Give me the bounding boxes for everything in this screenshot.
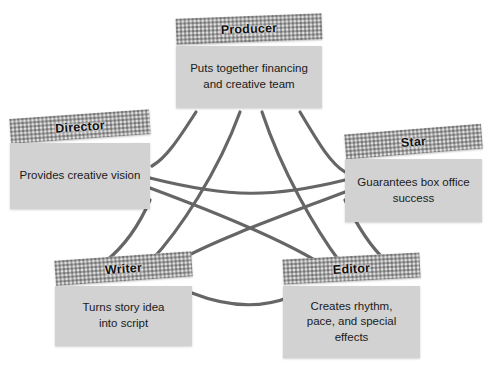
- node-producer-header: Producer: [176, 13, 323, 45]
- node-producer-body: Puts together financing and creative tea…: [176, 46, 322, 108]
- node-producer[interactable]: Producer Puts together financing and cre…: [176, 16, 322, 108]
- node-editor[interactable]: Editor Creates rhythm, pace, and special…: [283, 256, 420, 358]
- node-writer-header: Writer: [54, 251, 192, 285]
- node-editor-description: Creates rhythm, pace, and special effect…: [307, 299, 397, 346]
- connector-writer-editor: [192, 293, 290, 305]
- connector-producer-star: [300, 112, 345, 172]
- diagram-canvas: Producer Puts together financing and cre…: [0, 0, 490, 367]
- node-director-description: Provides creative vision: [20, 168, 141, 184]
- node-star-title: Star: [394, 133, 432, 150]
- node-director-body: Provides creative vision: [10, 143, 150, 209]
- node-writer-description: Turns story idea into script: [82, 300, 164, 331]
- node-director[interactable]: Director Provides creative vision: [10, 114, 150, 209]
- node-editor-title: Editor: [327, 260, 377, 277]
- node-writer-title: Writer: [99, 260, 149, 277]
- node-writer[interactable]: Writer Turns story idea into script: [55, 256, 192, 346]
- node-star[interactable]: Star Guarantees box office success: [345, 129, 482, 222]
- node-editor-header: Editor: [282, 252, 420, 284]
- connector-star-writer: [176, 192, 345, 262]
- node-star-header: Star: [344, 124, 483, 160]
- connector-producer-director: [152, 112, 196, 166]
- connector-director-writer: [106, 200, 150, 261]
- node-director-header: Director: [9, 109, 150, 144]
- node-producer-description: Puts together financing and creative tea…: [190, 61, 308, 92]
- node-star-description: Guarantees box office success: [357, 175, 469, 206]
- node-editor-body: Creates rhythm, pace, and special effect…: [283, 286, 420, 358]
- node-star-body: Guarantees box office success: [345, 159, 482, 222]
- connector-director-editor: [150, 188, 318, 262]
- node-writer-body: Turns story idea into script: [55, 286, 192, 346]
- node-director-title: Director: [49, 117, 111, 135]
- connector-director-star: [150, 178, 345, 193]
- node-producer-title: Producer: [215, 21, 284, 38]
